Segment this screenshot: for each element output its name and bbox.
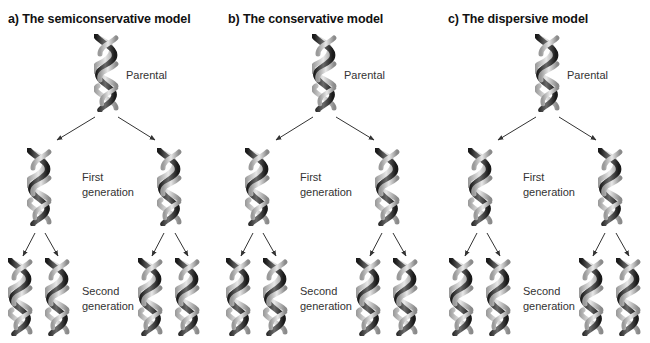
panel-conservative: b) The conservative model Parental First… (220, 0, 435, 343)
second-generation-label: Second generation (523, 284, 575, 314)
second-gen-helix-icon (263, 258, 289, 336)
second-generation-label: Second generation (82, 284, 134, 314)
second-label-line2: generation (82, 299, 134, 314)
panel-semiconservative: a) The semiconservative model Parental F… (0, 0, 215, 343)
second-gen-helix-icon (616, 258, 642, 336)
first-label-line1: First (523, 170, 575, 185)
first-label-line2: generation (523, 185, 575, 200)
second-label-line2: generation (300, 299, 352, 314)
first-label-line1: First (300, 170, 352, 185)
first-gen-helix-icon (375, 148, 401, 226)
first-gen-helix-icon (157, 148, 183, 226)
first-generation-label: First generation (523, 170, 575, 200)
second-label-line1: Second (300, 284, 352, 299)
second-gen-helix-icon (486, 258, 512, 336)
first-gen-helix-icon (468, 148, 494, 226)
first-gen-helix-icon (27, 148, 53, 226)
first-generation-label: First generation (82, 170, 134, 200)
first-label-line1: First (82, 170, 134, 185)
second-gen-helix-icon (393, 258, 419, 336)
first-gen-helix-icon (598, 148, 624, 226)
second-gen-helix-icon (226, 258, 252, 336)
first-label-line2: generation (82, 185, 134, 200)
first-gen-helix-icon (245, 148, 271, 226)
first-label-line2: generation (300, 185, 352, 200)
second-gen-helix-icon (138, 258, 164, 336)
first-generation-label: First generation (300, 170, 352, 200)
second-gen-helix-icon (45, 258, 71, 336)
second-label-line2: generation (523, 299, 575, 314)
panel-dispersive: c) The dispersive model Parental First g… (440, 0, 650, 343)
second-gen-helix-icon (175, 258, 201, 336)
second-label-line1: Second (82, 284, 134, 299)
second-gen-helix-icon (8, 258, 34, 336)
second-gen-helix-icon (579, 258, 605, 336)
second-gen-helix-icon (356, 258, 382, 336)
second-gen-helix-icon (449, 258, 475, 336)
second-generation-label: Second generation (300, 284, 352, 314)
second-label-line1: Second (523, 284, 575, 299)
